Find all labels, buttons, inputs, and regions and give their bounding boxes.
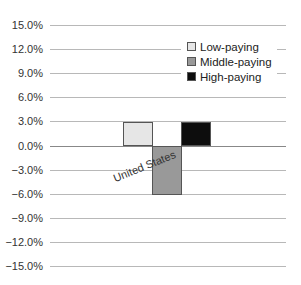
bar-chart: 15.0%12.0%9.0%6.0%3.0%0.0%−3.0%−6.0%−9.0… [0,0,301,285]
legend-label: Low-paying [200,41,259,53]
legend-label: High-paying [200,71,261,83]
y-tick-label: 9.0% [18,67,43,79]
gridline [50,242,286,243]
y-tick-label: −9.0% [12,212,44,224]
y-tick-label: 0.0% [18,140,43,152]
y-tick-label: 3.0% [18,115,43,127]
legend-item-middle-paying: Middle-paying [181,54,277,69]
y-tick-label: −15.0% [5,260,43,272]
legend-swatch-middle-paying [187,57,196,66]
gridline [50,266,286,267]
bar-low-paying [123,122,153,146]
gridline [50,121,286,122]
legend-swatch-low-paying [187,42,196,51]
legend: Low-paying Middle-paying High-paying [181,38,277,85]
gridline [50,25,286,26]
gridline [50,218,286,219]
legend-label: Middle-paying [200,56,272,68]
y-tick-label: −3.0% [12,164,44,176]
y-tick-label: −6.0% [12,188,44,200]
legend-item-low-paying: Low-paying [181,39,277,54]
y-tick-label: −12.0% [5,236,43,248]
bar-high-paying [181,122,211,146]
legend-item-high-paying: High-paying [181,69,277,84]
legend-swatch-high-paying [187,72,196,81]
y-tick-label: 12.0% [12,43,43,55]
y-tick-label: 6.0% [18,91,43,103]
y-tick-label: 15.0% [12,19,43,31]
gridline [50,97,286,98]
